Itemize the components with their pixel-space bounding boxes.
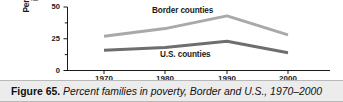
series-label-border-counties: Border counties [152, 6, 213, 15]
series-label-us-counties: U.S. counties [160, 50, 211, 59]
y-tick-label-50: 50 [44, 2, 60, 11]
figure-number-label: Figure 65. [11, 86, 60, 97]
figure-caption: Figure 65. Percent families in poverty, … [0, 86, 322, 97]
chart-plot-area: Percent families in poverty 50 25 0 1970… [0, 0, 343, 80]
y-axis-title-line-2: in poverty [31, 0, 40, 18]
figure-caption-band: Figure 65. Percent families in poverty, … [0, 80, 343, 102]
y-axis-title-line-1: Percent families [22, 0, 31, 18]
y-tick-label-25: 25 [44, 34, 60, 43]
figure-caption-title: Percent families in poverty, Border and … [63, 86, 322, 97]
series-line-border-counties [104, 16, 288, 36]
figure-container: Percent families in poverty 50 25 0 1970… [0, 0, 343, 102]
y-axis-title: Percent families in poverty [22, 0, 38, 18]
y-tick-label-0: 0 [44, 66, 60, 75]
